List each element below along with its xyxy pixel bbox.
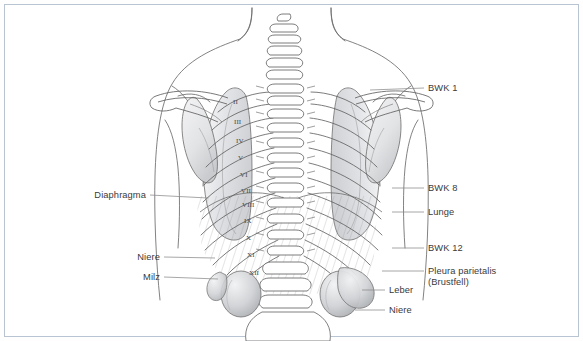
label-milz: Milz [143, 272, 160, 283]
anatomy-illustration [0, 0, 583, 341]
rib-numeral-V: V [238, 153, 243, 164]
label-text: BWK 8 [428, 183, 457, 193]
rib-numeral-VIII: VIII [242, 200, 254, 211]
label-bwk-8: BWK 8 [428, 183, 457, 194]
anatomy-figure: IIIIIIVVVIVIIVIIIIXXXIXII BWK 1BWK 8Lung… [0, 0, 583, 341]
label-pleura: Pleura parietalis(Brustfell) [428, 266, 496, 289]
label-text: Milz [143, 272, 160, 282]
rib-numeral-II: II [233, 97, 238, 108]
label-lunge: Lunge [428, 207, 454, 218]
label-text: Pleura parietalis [428, 266, 496, 276]
rib-numeral-XII: XII [249, 268, 259, 279]
rib-numeral-VI: VI [240, 170, 248, 181]
label-niere-right: Niere [389, 305, 412, 316]
vertebral-column [256, 14, 315, 308]
rib-numeral-XI: XI [247, 250, 255, 261]
rib-numeral-IX: IX [244, 216, 252, 227]
label-text: Niere [389, 305, 412, 315]
label-niere-left: Niere [137, 252, 160, 263]
label-text: Niere [137, 252, 160, 262]
rib-numeral-VII: VII [241, 186, 251, 197]
rib-numeral-III: III [234, 117, 241, 128]
label-text: BWK 1 [428, 83, 457, 93]
rib-numeral-X: X [246, 233, 251, 244]
rib-numeral-IV: IV [236, 136, 244, 147]
label-leber: Leber [389, 285, 413, 296]
label-bwk-12: BWK 12 [428, 243, 463, 254]
label-text: Lunge [428, 207, 454, 217]
cervical-vertebrae [266, 14, 302, 79]
label-text: Leber [389, 285, 413, 295]
lumbar-vertebrae [259, 262, 312, 308]
label-text-line2: (Brustfell) [428, 277, 469, 287]
label-text: BWK 12 [428, 243, 463, 253]
pelvis-outline [246, 312, 331, 341]
label-text: Diaphragma [94, 190, 146, 200]
label-diaphragma: Diaphragma [94, 190, 146, 201]
label-bwk-1: BWK 1 [428, 83, 457, 94]
